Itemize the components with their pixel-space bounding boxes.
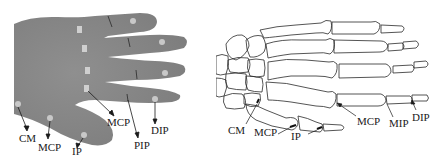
label-mcp-finger: MCP [357, 115, 380, 127]
label-mcp-thumb: MCP [38, 141, 61, 153]
hand-photo-panel: CM MCP IP MCP PIP DIP [0, 0, 220, 163]
marker-fingertip [159, 39, 165, 45]
label-cm: CM [19, 132, 36, 144]
label-dip: DIP [151, 124, 169, 136]
marker-cm [15, 101, 21, 107]
hand-photo-illustration: CM MCP IP MCP PIP DIP [0, 0, 220, 163]
label-cm: CM [228, 124, 245, 136]
label-ip: IP [72, 145, 82, 157]
marker-knuckle [82, 45, 87, 52]
marker-mcp-thumb [47, 115, 53, 121]
hand-skeleton-illustration: CM MCP IP MCP MIP DIP [216, 0, 446, 163]
marker-dip [152, 96, 158, 102]
label-mcp-thumb: MCP [254, 126, 277, 138]
label-mcp-finger: MCP [107, 116, 130, 128]
label-pip: PIP [134, 139, 150, 151]
marker-fingertip [130, 18, 136, 24]
marker-fingertip [162, 70, 168, 76]
label-dip: DIP [412, 111, 430, 123]
hand-skeleton-panel: CM MCP IP MCP MIP DIP [216, 0, 446, 163]
marker-ip [81, 132, 87, 138]
marker-knuckle [85, 67, 90, 74]
label-ip: IP [291, 130, 301, 142]
label-mip: MIP [389, 117, 409, 129]
bones [216, 20, 429, 132]
marker-knuckle [77, 26, 82, 33]
